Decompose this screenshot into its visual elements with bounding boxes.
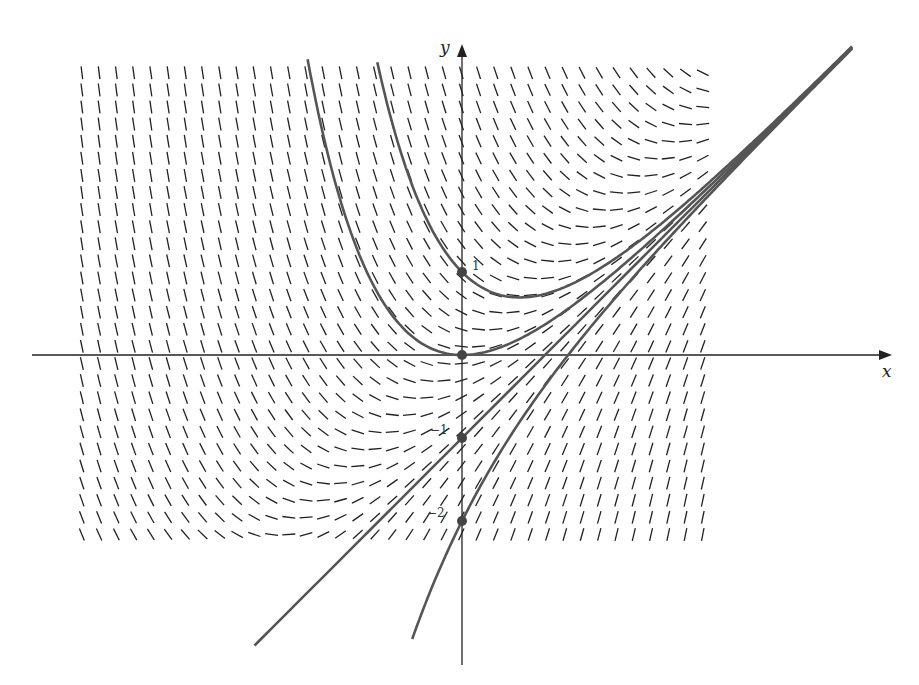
- slope-segment: [287, 203, 290, 216]
- slope-segment: [511, 84, 516, 96]
- slope-segment: [218, 375, 223, 387]
- slope-segment: [80, 374, 83, 387]
- slope-segment: [286, 341, 291, 353]
- slope-segment: [560, 189, 571, 197]
- slope-segment: [150, 169, 152, 182]
- slope-segment: [251, 444, 259, 455]
- slope-segment: [579, 409, 585, 421]
- slope-segment: [356, 169, 360, 182]
- slope-segment: [611, 137, 622, 145]
- slope-segment: [270, 152, 273, 165]
- slope-segment: [339, 84, 342, 97]
- slope-segment: [130, 529, 136, 540]
- slope-segment: [81, 135, 83, 148]
- slope-segment: [456, 309, 468, 315]
- slope-segment: [458, 478, 465, 489]
- slope-segment: [115, 340, 118, 353]
- slope-segment: [650, 511, 653, 524]
- slope-segment: [81, 323, 84, 336]
- slope-segment: [697, 139, 709, 143]
- slope-segment: [115, 357, 118, 370]
- slope-segment: [270, 289, 274, 301]
- slope-segment: [442, 67, 446, 80]
- slope-segment: [476, 170, 482, 182]
- slope-segment: [700, 289, 705, 301]
- slope-segment: [167, 169, 169, 182]
- slope-segment: [184, 306, 187, 319]
- slope-segment: [354, 324, 361, 335]
- slope-segment: [596, 84, 603, 95]
- slope-segment: [183, 426, 188, 438]
- slope-segment: [285, 427, 294, 437]
- slope-segment: [165, 495, 171, 506]
- slope-segment: [182, 495, 189, 506]
- slope-segment: [287, 238, 291, 251]
- slope-segment: [150, 255, 153, 268]
- slope-segment: [615, 443, 619, 455]
- slope-segment: [339, 169, 343, 182]
- slope-segment: [98, 289, 101, 302]
- slope-segment: [527, 443, 533, 455]
- slope-segment: [268, 409, 275, 420]
- slope-segment: [373, 204, 377, 216]
- slope-segment: [615, 477, 619, 490]
- slope-segment: [166, 443, 171, 455]
- slope-segment: [390, 152, 394, 164]
- slope-segment: [696, 106, 709, 107]
- slope-segment: [202, 101, 204, 114]
- slope-segment: [649, 392, 653, 404]
- slope-segment: [701, 494, 704, 507]
- slope-segment: [491, 257, 502, 265]
- slope-segment: [201, 169, 203, 182]
- slope-segment: [115, 169, 117, 182]
- slope-segment: [81, 118, 83, 131]
- slope-segment: [493, 101, 498, 113]
- slope-segment: [391, 135, 395, 147]
- slope-segment: [612, 102, 621, 112]
- slope-segment: [300, 481, 312, 485]
- slope-segment: [150, 118, 152, 131]
- slope-segment: [334, 465, 347, 467]
- slope-segment: [542, 224, 554, 230]
- slope-segment: [390, 221, 395, 233]
- slope-segment: [645, 139, 658, 143]
- slope-segment: [115, 118, 117, 131]
- slope-segment: [269, 323, 274, 335]
- slope-segment: [528, 477, 533, 489]
- initial-point-1: [457, 350, 467, 360]
- slope-segment: [335, 515, 347, 521]
- slope-segment: [356, 221, 360, 233]
- slope-segment: [387, 463, 399, 469]
- slope-segment: [580, 494, 584, 507]
- slope-segment: [408, 118, 412, 130]
- slope-segment: [614, 426, 618, 438]
- slope-segment: [132, 306, 135, 319]
- slope-segment: [544, 118, 551, 129]
- slope-segment: [561, 375, 568, 386]
- slope-segment: [441, 187, 447, 199]
- slope-segment: [300, 499, 313, 501]
- slope-segment: [356, 84, 359, 97]
- slope-segment: [81, 306, 84, 319]
- slope-segment: [701, 340, 705, 352]
- slope-segment: [267, 462, 276, 471]
- slope-segment: [611, 241, 623, 247]
- slope-segment: [526, 188, 535, 198]
- slope-segment: [558, 243, 571, 244]
- slope-segment: [115, 220, 117, 233]
- slope-segment: [455, 379, 467, 383]
- slope-segment: [96, 529, 101, 541]
- slope-segment: [236, 152, 239, 165]
- slope-segment: [647, 68, 656, 78]
- slope-segment: [508, 222, 518, 231]
- slope-segment: [510, 477, 516, 489]
- slope-segment: [645, 121, 657, 127]
- slope-segment: [597, 443, 601, 455]
- slope-segment: [630, 307, 637, 318]
- slope-segment: [475, 187, 482, 198]
- slope-segment: [524, 259, 536, 263]
- slope-segment: [526, 376, 535, 386]
- slope-segment: [148, 460, 153, 472]
- slope-segment: [662, 158, 675, 160]
- slope-segment: [80, 357, 83, 370]
